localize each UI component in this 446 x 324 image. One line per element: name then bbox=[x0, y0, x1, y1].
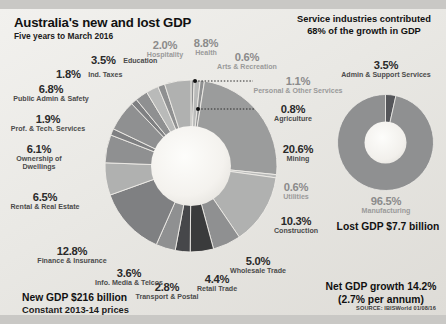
label-agriculture-pct: 0.8% bbox=[262, 103, 324, 115]
label-ownership-name: Ownership of Dwellings bbox=[2, 155, 76, 171]
label-personal-name: Personal & Other Services bbox=[249, 87, 347, 95]
label-prof-tech-name: Prof. & Tech. Services bbox=[2, 125, 94, 133]
label-hospitality-name: Hospitality bbox=[144, 51, 186, 59]
label-admin-support-name: Admin & Support Services bbox=[340, 71, 432, 79]
net-gdp-growth: Net GDP growth 14.2% (2.7% per annum) bbox=[318, 281, 444, 307]
label-mining-pct: 20.6% bbox=[267, 143, 329, 155]
label-agriculture: 0.8% Agriculture bbox=[262, 103, 324, 123]
right-headline-line1: Service industries contributed bbox=[297, 14, 431, 24]
label-wholesale-pct: 5.0% bbox=[222, 255, 294, 267]
label-manufacturing-pct: 96.5% bbox=[348, 195, 424, 207]
label-ind-taxes-name: Ind. Taxes bbox=[88, 71, 122, 79]
label-education-pct: 3.5% bbox=[91, 54, 116, 66]
label-utilities-pct: 0.6% bbox=[268, 181, 324, 193]
label-utilities: 0.6% Utilities bbox=[268, 181, 324, 201]
label-construction-pct: 10.3% bbox=[262, 215, 330, 227]
lost-gdp-total: Lost GDP $7.7 billion bbox=[332, 221, 444, 233]
label-arts-name: Arts & Recreation bbox=[205, 63, 289, 71]
label-admin-support-services: 3.5% Admin & Support Services bbox=[340, 59, 432, 79]
label-rental-name: Rental & Real Estate bbox=[6, 203, 84, 211]
right-headline: Service industries contributed 68% of th… bbox=[288, 14, 440, 37]
label-manufacturing: 96.5% Manufacturing bbox=[348, 195, 424, 215]
label-ind-taxes-pct: 1.8% bbox=[56, 68, 81, 80]
label-personal-services: 1.1% Personal & Other Services bbox=[249, 75, 347, 95]
label-health-pct: 8.8% bbox=[189, 37, 223, 49]
label-hospitality: 2.0% Hospitality bbox=[144, 39, 186, 59]
page-subtitle: Five years to March 2016 bbox=[14, 31, 264, 41]
label-public-admin-pct: 6.8% bbox=[2, 83, 100, 95]
label-info-media-name: Info. Media & Telcos bbox=[90, 279, 168, 287]
label-construction-name: Construction bbox=[262, 227, 330, 235]
leader-dot-agriculture bbox=[196, 107, 200, 111]
label-mining: 20.6% Mining bbox=[267, 143, 329, 163]
label-rental-pct: 6.5% bbox=[6, 191, 84, 203]
lost-gdp-total-value: Lost GDP $7.7 billion bbox=[337, 221, 440, 232]
new-gdp-total-note: Constant 2013-14 prices bbox=[22, 304, 192, 316]
label-ownership-pct: 6.1% bbox=[2, 143, 76, 155]
label-finance-pct: 12.8% bbox=[28, 245, 116, 257]
label-mining-name: Mining bbox=[267, 155, 329, 163]
label-prof-tech-services: 1.9% Prof. & Tech. Services bbox=[2, 113, 94, 133]
label-manufacturing-name: Manufacturing bbox=[348, 207, 424, 215]
label-arts-recreation: 0.6% Arts & Recreation bbox=[205, 51, 289, 71]
label-utilities-name: Utilities bbox=[268, 193, 324, 201]
new-gdp-donut-chart bbox=[103, 71, 279, 261]
label-rental-real-estate: 6.5% Rental & Real Estate bbox=[6, 191, 84, 211]
label-construction: 10.3% Construction bbox=[262, 215, 330, 235]
label-personal-pct: 1.1% bbox=[249, 75, 347, 87]
source-attribution: SOURCE: IBISWorld 01/08/16 bbox=[356, 305, 436, 311]
new-gdp-total-value: New GDP $216 billion bbox=[22, 292, 127, 303]
label-arts-pct: 0.6% bbox=[205, 51, 289, 63]
leader-dot-personal bbox=[193, 79, 197, 83]
label-hospitality-pct: 2.0% bbox=[144, 39, 186, 51]
right-headline-line2: 68% of the growth in GDP bbox=[307, 26, 421, 36]
label-agriculture-name: Agriculture bbox=[262, 115, 324, 123]
new-gdp-total: New GDP $216 billion Constant 2013-14 pr… bbox=[22, 292, 192, 317]
label-finance-insurance: 12.8% Finance & Insurance bbox=[28, 245, 116, 265]
label-finance-name: Finance & Insurance bbox=[28, 257, 116, 265]
label-info-media-telcos: 3.6% Info. Media & Telcos bbox=[90, 267, 168, 287]
net-gdp-growth-value: Net GDP growth 14.2% bbox=[326, 281, 437, 292]
label-ownership-dwellings: 6.1% Ownership of Dwellings bbox=[2, 143, 76, 171]
label-public-admin-name: Public Admin & Safety bbox=[2, 95, 100, 103]
page-title: Australia's new and lost GDP bbox=[14, 15, 264, 30]
label-prof-tech-pct: 1.9% bbox=[2, 113, 94, 125]
infographic-canvas: Australia's new and lost GDP Five years … bbox=[0, 0, 446, 324]
label-info-media-pct: 3.6% bbox=[90, 267, 168, 279]
label-admin-support-pct: 3.5% bbox=[340, 59, 432, 71]
label-public-admin-safety: 6.8% Public Admin & Safety bbox=[2, 83, 100, 103]
lost-gdp-donut-chart bbox=[336, 93, 435, 192]
